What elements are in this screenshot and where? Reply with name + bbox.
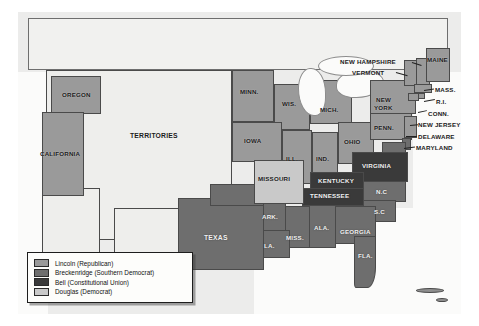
legend-label-breckenridge: Breckenridge (Southern Democrat) <box>55 269 154 276</box>
region-minnesota <box>232 70 274 122</box>
label-north-carolina: N.C <box>376 188 387 195</box>
legend-label-douglas: Douglas (Democrat) <box>55 288 112 295</box>
label-tennessee: TENNESSEE <box>310 192 349 199</box>
label-minnesota: MINN. <box>240 88 259 95</box>
label-pennsylvania: PENN. <box>374 124 394 131</box>
legend-label-bell: Bell (Constitutional Union) <box>55 279 129 286</box>
region-connecticut <box>408 93 419 101</box>
election-map-figure: TERRITORIES OREGON CALIFORNIA MINN. WIS.… <box>18 12 461 314</box>
label-rhode-island: R.I. <box>436 98 446 105</box>
label-new-hampshire: NEW HAMPSHIRE <box>340 58 396 65</box>
label-georgia: GEORGIA <box>340 228 371 235</box>
label-new-jersey: NEW JERSEY <box>418 121 461 128</box>
label-oregon: OREGON <box>62 91 91 98</box>
label-massachusetts: MASS. <box>435 86 456 93</box>
legend-swatch-douglas <box>34 288 49 296</box>
map-legend: Lincoln (Republican) Breckenridge (South… <box>27 252 193 303</box>
island-cuba <box>416 288 444 293</box>
legend-swatch-lincoln <box>34 259 49 267</box>
label-arkansas: ARK. <box>262 213 278 220</box>
label-territories: TERRITORIES <box>130 132 178 139</box>
label-vermont: VERMONT <box>352 69 384 76</box>
legend-swatch-bell <box>34 278 49 286</box>
label-new-york-line2: YORK <box>374 104 393 111</box>
region-rhode-island <box>418 93 425 99</box>
label-texas: TEXAS <box>204 234 228 241</box>
label-missouri: MISSOURI <box>258 175 290 182</box>
label-south-carolina: S.C <box>374 208 385 215</box>
label-mississippi: MISS. <box>286 234 304 241</box>
label-california: CALIFORNIA <box>40 150 80 157</box>
region-florida <box>354 236 376 288</box>
legend-swatch-breckenridge <box>34 269 49 277</box>
region-missouri <box>254 160 304 204</box>
label-florida: FLA. <box>358 252 373 259</box>
region-new-jersey <box>404 116 417 138</box>
legend-item-douglas: Douglas (Democrat) <box>34 288 186 296</box>
label-delaware: DELAWARE <box>418 133 455 140</box>
label-ohio: OHIO <box>344 138 361 145</box>
legend-item-breckenridge: Breckenridge (Southern Democrat) <box>34 269 186 277</box>
legend-item-lincoln: Lincoln (Republican) <box>34 259 186 267</box>
label-indiana: IND. <box>316 155 329 162</box>
leader-delaware <box>406 136 417 137</box>
label-maine: MAINE <box>427 56 448 63</box>
legend-item-bell: Bell (Constitutional Union) <box>34 278 186 286</box>
label-iowa: IOWA <box>244 137 261 144</box>
legend-label-lincoln: Lincoln (Republican) <box>55 260 113 267</box>
label-wisconsin: WIS. <box>282 100 296 107</box>
island-hispaniola <box>436 298 448 302</box>
label-connecticut: CONN. <box>428 110 449 117</box>
label-alabama: ALA. <box>314 224 329 231</box>
label-maryland: MARYLAND <box>416 144 453 151</box>
label-kentucky: KENTUCKY <box>318 177 354 184</box>
region-maine <box>426 48 450 82</box>
label-michigan: MICH. <box>320 106 339 113</box>
label-louisiana: LA. <box>264 242 275 249</box>
label-new-york-line1: NEW <box>376 96 391 103</box>
label-virginia: VIRGINIA <box>362 162 391 169</box>
label-illinois: ILL. <box>286 155 298 162</box>
